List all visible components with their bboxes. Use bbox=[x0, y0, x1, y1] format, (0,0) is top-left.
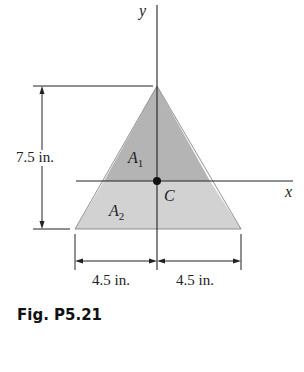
height-dimension-label: 7.5 in. bbox=[16, 149, 54, 165]
centroid-label: C bbox=[164, 187, 175, 204]
y-axis-label: y bbox=[137, 2, 147, 20]
left-base-dimension-label: 4.5 in. bbox=[92, 272, 130, 288]
figure-caption: Fig. P5.21 bbox=[17, 306, 102, 324]
right-base-dimension-label: 4.5 in. bbox=[176, 272, 214, 288]
x-axis-label: x bbox=[284, 183, 292, 200]
region-a2 bbox=[75, 181, 241, 229]
centroid-dot bbox=[153, 177, 161, 185]
